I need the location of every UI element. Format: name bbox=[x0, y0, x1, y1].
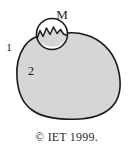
copyright-caption: © IET 1999. bbox=[0, 130, 133, 145]
figure-container: M 1 2 © IET 1999. bbox=[0, 0, 133, 150]
inclusion-circle-m bbox=[37, 19, 68, 50]
label-region-1: 1 bbox=[6, 41, 12, 53]
diagram-canvas: M 1 2 bbox=[0, 0, 133, 150]
label-region-2: 2 bbox=[28, 64, 34, 78]
label-m: M bbox=[56, 7, 68, 22]
